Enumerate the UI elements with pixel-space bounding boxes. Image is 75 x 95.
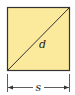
side-label: s (36, 81, 42, 94)
arrowhead-left-icon (8, 86, 13, 90)
square-diagram: d s (0, 0, 75, 95)
arrowhead-right-icon (64, 86, 69, 90)
diagonal-label: d (39, 38, 46, 51)
